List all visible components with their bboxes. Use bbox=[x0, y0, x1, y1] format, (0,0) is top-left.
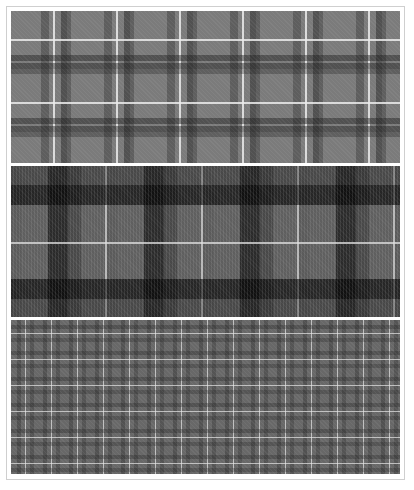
tartan-swatch-dark bbox=[11, 166, 400, 317]
twill-texture bbox=[11, 320, 400, 474]
tartan-swatch-fine-plaid bbox=[11, 320, 400, 474]
twill-texture bbox=[11, 166, 400, 317]
tartan-swatch-medium-grey bbox=[11, 11, 400, 163]
twill-texture bbox=[11, 11, 400, 163]
